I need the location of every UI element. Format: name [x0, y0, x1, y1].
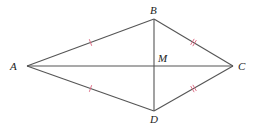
- point-label-d: D: [149, 113, 158, 125]
- point-label-m: M: [157, 52, 168, 64]
- kite-diagram: A B C D M: [0, 0, 253, 131]
- point-label-b: B: [150, 4, 157, 16]
- segment-cd: [154, 66, 233, 111]
- point-label-a: A: [9, 60, 17, 72]
- point-label-c: C: [238, 60, 246, 72]
- kite-figure: A B C D M: [0, 0, 253, 131]
